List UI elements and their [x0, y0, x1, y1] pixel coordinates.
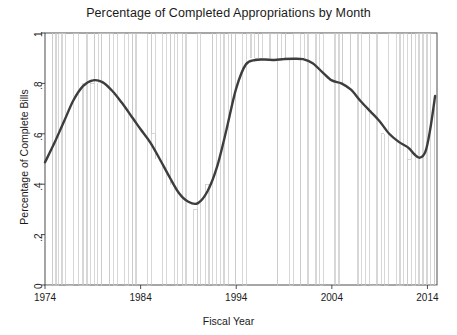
- x-tick-label: 2014: [405, 292, 449, 303]
- chart-root: Percentage of Completed Appropriations b…: [0, 0, 457, 335]
- x-axis-label: Fiscal Year: [0, 315, 457, 327]
- monthly-step-series: [45, 33, 437, 285]
- x-axis-ticks: 19741984199420042014: [0, 292, 457, 312]
- plot-frame: [45, 33, 437, 285]
- x-tick-label: 1984: [119, 292, 163, 303]
- plot-area: [0, 0, 457, 335]
- x-tick-label: 2004: [310, 292, 354, 303]
- x-tick-label: 1994: [214, 292, 258, 303]
- x-tick-label: 1974: [23, 292, 67, 303]
